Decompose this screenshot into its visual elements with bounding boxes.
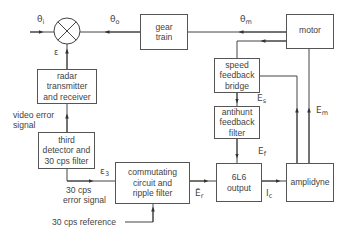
e-s-label: Es — [257, 93, 266, 105]
commutating-circuit-block: commutatingcircuit andripple filter — [115, 162, 190, 204]
theta-o-label: θo — [110, 14, 120, 26]
reference-label: 30 cps reference — [52, 217, 116, 227]
video-error-signal-label: video errorsignal — [13, 110, 54, 130]
e-r-label: Ēr — [195, 188, 203, 200]
speed-feedback-bridge-block: speedfeedbackbridge — [214, 58, 260, 93]
epsilon-label: ε — [54, 48, 58, 57]
theta-m-label: θm — [240, 14, 252, 26]
motor-block: motor — [286, 14, 334, 49]
e-f-label: Ef — [258, 146, 266, 158]
gear-train-block: geartrain — [140, 14, 188, 50]
antihunt-feedback-filter-block: antihuntfeedbackfilter — [214, 106, 260, 139]
6l6-output-block: 6L6output — [216, 163, 262, 202]
summing-junction — [54, 18, 80, 44]
third-detector-block: thirddetector and30 cps filter — [38, 132, 95, 169]
e-m-label: Em — [316, 105, 328, 117]
error-signal-label: 30 cpserror signal — [63, 185, 106, 205]
theta-i-label: θi — [37, 14, 44, 26]
amplidyne-block: amplidyne — [286, 163, 334, 202]
epsilon-3-label: ε3 — [100, 166, 109, 178]
radar-transmitter-receiver-block: radartransmitterand receiver — [37, 69, 97, 104]
i-c-label: Ic — [266, 188, 272, 200]
